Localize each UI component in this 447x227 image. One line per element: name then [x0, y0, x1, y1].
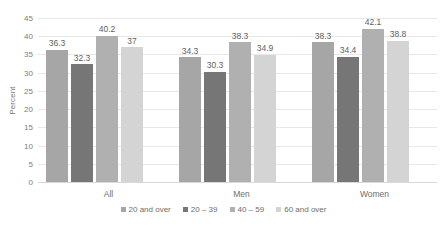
legend-swatch-icon — [230, 207, 235, 212]
x-axis-label-text: Women — [326, 189, 423, 199]
gridline-0: 0 — [38, 182, 437, 183]
y-tick-20: 20 — [24, 105, 33, 114]
x-axis-label-women: Women — [304, 189, 437, 199]
y-axis-title: Percent — [8, 71, 17, 131]
bar-chart: Percent 45 40 35 30 25 20 15 10 5 0 — [0, 0, 447, 227]
bar-value-label: 40.2 — [99, 24, 116, 34]
bar-all-20-39[interactable] — [71, 64, 93, 182]
bar-value-label: 30.3 — [207, 60, 224, 70]
y-tick-25: 25 — [24, 86, 33, 95]
bar-value-label: 34.4 — [340, 45, 357, 55]
bar-value-label: 38.8 — [390, 29, 407, 39]
y-tick-40: 40 — [24, 32, 33, 41]
y-tick-5: 5 — [29, 159, 33, 168]
x-axis-label-all: All — [38, 189, 171, 199]
x-axis-label-text: All — [60, 189, 157, 199]
bar-slot: 32.3 — [71, 18, 93, 182]
bar-women-40-59[interactable] — [362, 29, 384, 182]
plot-area: 45 40 35 30 25 20 15 10 5 0 — [38, 18, 437, 182]
bar-slot: 34.4 — [337, 18, 359, 182]
bar-men-60-and-over[interactable] — [254, 55, 276, 182]
bar-slot: 38.8 — [387, 18, 409, 182]
bar-slot: 40.2 — [96, 18, 118, 182]
bar-men-20-and-over[interactable] — [179, 57, 201, 182]
legend-item-40-59[interactable]: 40 – 59 — [230, 205, 265, 214]
y-tick-35: 35 — [24, 50, 33, 59]
bar-value-label: 38.3 — [232, 31, 249, 41]
bar-value-label: 32.3 — [74, 53, 91, 63]
y-tick-30: 30 — [24, 68, 33, 77]
y-tick-10: 10 — [24, 141, 33, 150]
legend-item-60-and-over[interactable]: 60 and over — [276, 205, 326, 214]
legend-item-20-and-over[interactable]: 20 and over — [121, 205, 171, 214]
legend-swatch-icon — [183, 207, 188, 212]
legend-label: 20 and over — [129, 205, 171, 214]
bar-value-label: 38.3 — [315, 31, 332, 41]
bar-men-20-39[interactable] — [204, 72, 226, 182]
legend-label: 60 and over — [284, 205, 326, 214]
bar-groups: 36.3 32.3 40.2 37 — [38, 18, 437, 182]
y-tick-0: 0 — [29, 178, 33, 187]
legend-label: 20 – 39 — [191, 205, 218, 214]
bar-slot: 34.9 — [254, 18, 276, 182]
bar-women-60-and-over[interactable] — [387, 41, 409, 182]
bar-women-20-and-over[interactable] — [312, 42, 334, 182]
legend-item-20-39[interactable]: 20 – 39 — [183, 205, 218, 214]
bar-value-label: 34.3 — [182, 46, 199, 56]
bar-all-40-59[interactable] — [96, 36, 118, 183]
x-axis-label-men: Men — [171, 189, 304, 199]
bar-all-60-and-over[interactable] — [121, 47, 143, 182]
bar-slot: 36.3 — [46, 18, 68, 182]
bar-slot: 38.3 — [229, 18, 251, 182]
bar-group-all: 36.3 32.3 40.2 37 — [38, 18, 171, 182]
bar-value-label: 34.9 — [257, 43, 274, 53]
bar-slot: 42.1 — [362, 18, 384, 182]
bar-slot: 34.3 — [179, 18, 201, 182]
y-tick-45: 45 — [24, 14, 33, 23]
bar-men-40-59[interactable] — [229, 42, 251, 182]
y-tick-15: 15 — [24, 123, 33, 132]
bar-slot: 30.3 — [204, 18, 226, 182]
bar-group-men: 34.3 30.3 38.3 34.9 — [171, 18, 304, 182]
x-axis-label-text: Men — [193, 189, 290, 199]
bar-women-20-39[interactable] — [337, 57, 359, 182]
bar-value-label: 37 — [127, 36, 136, 46]
bar-slot: 37 — [121, 18, 143, 182]
legend-swatch-icon — [276, 207, 281, 212]
bar-value-label: 36.3 — [49, 38, 66, 48]
bar-slot: 38.3 — [312, 18, 334, 182]
bar-group-women: 38.3 34.4 42.1 38.8 — [304, 18, 437, 182]
bar-value-label: 42.1 — [365, 17, 382, 27]
bar-all-20-and-over[interactable] — [46, 50, 68, 182]
legend: 20 and over 20 – 39 40 – 59 60 and over — [0, 205, 447, 214]
legend-label: 40 – 59 — [238, 205, 265, 214]
legend-swatch-icon — [121, 207, 126, 212]
